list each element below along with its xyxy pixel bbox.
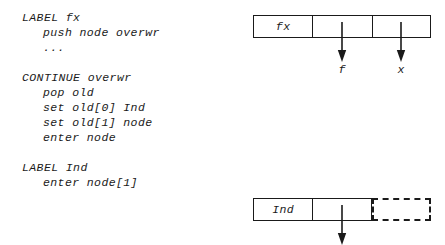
code-line: set old[0] Ind [22,100,237,115]
code-line: LABEL Ind [22,160,237,175]
ind-node-diagram: Ind [253,198,431,221]
pseudocode-listing: LABEL fx push node overwr ... CONTINUE o… [22,10,237,190]
code-line: enter node[1] [22,175,237,190]
code-line: push node overwr [22,25,237,40]
label-fx-block: LABEL fx push node overwr ... [22,10,237,55]
code-line: set old[1] node [22,115,237,130]
code-line: enter node [22,130,237,145]
node-cell-label: Ind [272,203,294,216]
node-cell: Ind [253,198,312,221]
arrow-x-label: x [394,63,408,76]
code-line: LABEL fx [22,10,237,25]
label-ind-block: LABEL Ind enter node[1] [22,160,237,190]
code-line: ... [22,40,237,55]
node-cell: fx [253,15,312,38]
node-cell [312,15,371,38]
node-cell [312,198,371,221]
code-line: pop old [22,85,237,100]
fx-node-diagram: fx f x [253,15,431,38]
arrow-f-label: f [335,63,349,76]
code-line: CONTINUE overwr [22,70,237,85]
node-cell [372,15,431,38]
node-cell-label: fx [276,20,291,33]
continue-overwr-block: CONTINUE overwr pop old set old[0] Ind s… [22,70,237,145]
cell-row: fx [253,15,431,38]
figure-canvas: LABEL fx push node overwr ... CONTINUE o… [0,0,445,245]
node-cell-placeholder [372,198,431,221]
cell-row: Ind [253,198,431,221]
